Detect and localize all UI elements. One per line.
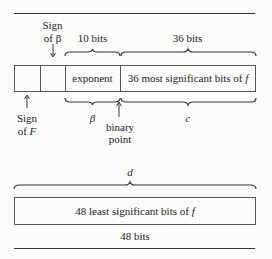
- lsb-cell-text: 48 least significant bits of f: [14, 205, 256, 217]
- c-bottom-brace: [121, 98, 256, 106]
- binary-point-label-line2: point: [100, 133, 140, 145]
- exponent-top-brace: [65, 49, 120, 57]
- sign-of-beta-label-line2: of β: [38, 32, 67, 44]
- sign-of-beta-label-line1: Sign: [40, 19, 65, 31]
- mantissa-width-label: 36 bits: [120, 32, 255, 44]
- up-arrow-icon: [23, 95, 31, 109]
- beta-bottom-brace: [65, 98, 120, 106]
- top-rule: [14, 13, 255, 14]
- bottom-width-label: 48 bits: [14, 230, 256, 242]
- divider-sign-F: [40, 65, 41, 92]
- binary-point-label-line1: binary: [100, 121, 140, 133]
- c-label: c: [178, 112, 198, 124]
- mantissa-top-brace: [121, 49, 256, 57]
- msb-cell-text: 36 most significant bits of f: [121, 72, 255, 84]
- exponent-width-label: 10 bits: [65, 32, 120, 44]
- sign-of-F-label-line1: Sign: [12, 112, 42, 124]
- sign-of-F-label-line2: of F: [12, 125, 42, 137]
- down-arrow-icon: [49, 44, 57, 58]
- d-top-brace: [14, 182, 256, 190]
- binary-point-up-arrow-icon: [115, 102, 123, 118]
- exponent-cell-text: exponent: [65, 72, 120, 84]
- bottom-rule: [14, 248, 255, 249]
- d-label: d: [120, 166, 140, 178]
